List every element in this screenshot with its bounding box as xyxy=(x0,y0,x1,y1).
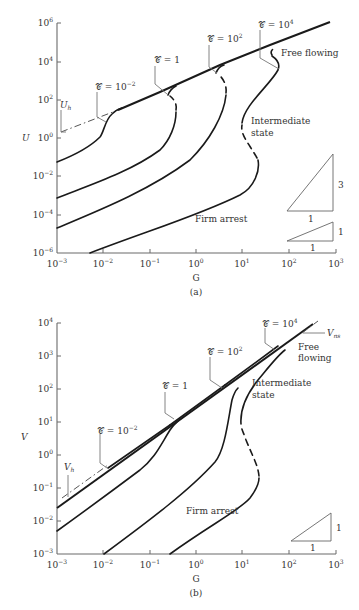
panel-a-caption: (a) xyxy=(190,287,202,297)
panel-a-x-label: G xyxy=(192,273,199,283)
firm-arrest-label: Firm arrest xyxy=(195,214,248,224)
vh-label: Vh xyxy=(64,462,75,473)
tri-3-run: 1 xyxy=(308,214,314,224)
panel-b-x-ticks xyxy=(103,550,336,554)
curve-c-1e2-unstable xyxy=(218,74,226,93)
vns-label: Vns xyxy=(327,328,340,339)
free-label-b: Free xyxy=(298,342,319,352)
panel-a-ytick-label: 104 xyxy=(38,55,53,67)
panel-a-xtick-label: 10−1 xyxy=(140,257,160,269)
panel-a-xtick-label: 101 xyxy=(234,257,249,269)
slope-triangle-3 xyxy=(287,154,333,211)
panel-b-ytick-label: 102 xyxy=(38,382,53,394)
panel-b-ytick-label: 10−3 xyxy=(33,547,53,559)
c-1-label: 𝒞 = 1 xyxy=(154,55,180,65)
panel-b-xtick-label: 10−3 xyxy=(47,558,67,570)
panel-a-xtick-label: 102 xyxy=(281,257,296,269)
c-1e-2-label: 𝒞 = 10−2 xyxy=(95,80,136,92)
panel-b-xtick-label: 100 xyxy=(188,558,203,570)
vns-extension xyxy=(302,321,318,333)
panel-a-ytick-label: 102 xyxy=(38,93,53,105)
c-1e-2-leader-b xyxy=(100,434,107,468)
panel-a-ytick-label: 10−2 xyxy=(33,169,53,181)
tri-1-run: 1 xyxy=(310,243,316,253)
firm-arrest-label-b: Firm arrest xyxy=(186,506,239,516)
panel-b-ytick-label: 103 xyxy=(38,349,53,361)
tri-1-rise: 1 xyxy=(338,227,344,237)
panel-a-xtick-label: 10−2 xyxy=(93,257,113,269)
panel-b-xtick-label: 101 xyxy=(234,558,249,570)
panel-a-xtick-label: 103 xyxy=(328,257,343,269)
panel-b-y-ticks xyxy=(57,323,61,521)
panel-b-ytick-label: 10−2 xyxy=(33,514,53,526)
panel-b-y-label: V xyxy=(21,432,29,442)
state-label: state xyxy=(251,128,274,138)
curve-c-1e2-upper-b xyxy=(170,385,225,425)
c-1e-2-leader xyxy=(97,92,106,122)
uh-leader xyxy=(61,110,66,132)
panel-b: 104 103 102 101 100 10−1 10−2 10−3 10−3 … xyxy=(21,316,344,598)
curve-c-1e4-lower xyxy=(90,160,258,253)
panel-b-xtick-label: 103 xyxy=(328,558,343,570)
slope-triangle-b xyxy=(291,513,331,541)
tri-b-run: 1 xyxy=(310,543,316,553)
panel-b-xtick-label: 10−2 xyxy=(93,558,113,570)
c-1e4-label: 𝒞 = 104 xyxy=(258,18,294,30)
panel-a-ytick-label: 100 xyxy=(38,131,53,143)
c-1-leader-b xyxy=(165,392,174,419)
panel-a-ytick-label: 10−4 xyxy=(33,208,53,220)
panel-a-y-label: U xyxy=(22,133,30,143)
c-1e4-leader xyxy=(260,30,279,69)
curve-c-1-unstable xyxy=(170,96,176,110)
curve-c-1e4-lower-b xyxy=(170,478,259,554)
panel-b-ytick-label: 10−1 xyxy=(33,481,53,493)
panel-a-xtick-label: 100 xyxy=(188,257,203,269)
tri-b-rise: 1 xyxy=(336,523,342,533)
c-1e4-label-b: 𝒞 = 104 xyxy=(262,317,298,329)
panel-b-ytick-label: 100 xyxy=(38,448,53,460)
uh-label: Uh xyxy=(60,100,72,111)
free-flowing-label: Free flowing xyxy=(281,48,339,58)
c-1-label-b: 𝒞 = 1 xyxy=(162,381,188,391)
curve-c-1e4-unstable-b xyxy=(241,426,259,476)
c-1e2-leader-b xyxy=(210,357,222,388)
panel-b-ytick-label: 104 xyxy=(38,316,53,328)
panel-b-caption: (b) xyxy=(190,588,203,598)
c-1e4-leader-b xyxy=(265,328,275,350)
figure: 106 104 102 100 10−2 10−4 10−6 10−3 10−2… xyxy=(0,0,359,610)
c-1e2-label: 𝒞 = 102 xyxy=(207,32,243,44)
intermediate-label: Intermediate xyxy=(251,116,310,126)
curve-c-1-b xyxy=(57,421,178,531)
panel-a-xtick-label: 10−3 xyxy=(47,257,67,269)
curve-c-1e4-unstable-upper xyxy=(271,48,275,55)
curve-c-1e-2 xyxy=(57,108,122,162)
c-1e-2-label-b: 𝒞 = 10−2 xyxy=(97,424,138,436)
flowing-label-b: flowing xyxy=(298,353,332,363)
state-label-b: state xyxy=(252,390,275,400)
panel-b-x-label: G xyxy=(192,574,199,584)
panel-a-y-ticks xyxy=(57,23,61,215)
panel-b-xtick-label: 102 xyxy=(281,558,296,570)
curve-c-1e2-b xyxy=(104,388,238,554)
panel-a: 106 104 102 100 10−2 10−4 10−6 10−3 10−2… xyxy=(22,16,344,297)
intermediate-label-b: Intermediate xyxy=(252,378,311,388)
c-1e2-label-b: 𝒞 = 102 xyxy=(207,345,243,357)
slope-triangle-1 xyxy=(287,222,333,241)
vns-asymptote xyxy=(57,324,313,508)
panel-a-ytick-label: 106 xyxy=(38,16,53,28)
uh-asymptote xyxy=(61,110,118,132)
tri-3-rise: 3 xyxy=(338,180,344,190)
panel-a-ytick-label: 10−6 xyxy=(33,246,53,258)
panel-a-x-ticks xyxy=(103,249,336,253)
panel-b-xtick-label: 10−1 xyxy=(140,558,160,570)
panel-b-ytick-label: 101 xyxy=(38,415,53,427)
